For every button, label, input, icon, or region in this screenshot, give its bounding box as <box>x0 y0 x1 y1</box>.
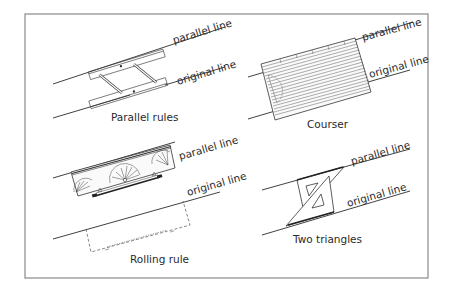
panel-caption: Rolling rule <box>130 253 189 265</box>
panel-caption: Parallel rules <box>111 111 178 123</box>
panel-caption: Two triangles <box>292 233 362 245</box>
panel-caption: Courser <box>307 118 349 130</box>
diagram-figure: parallel line original line Parallel rul… <box>0 0 450 292</box>
